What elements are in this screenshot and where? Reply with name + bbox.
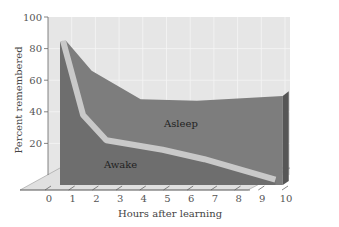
x-tick-label: 7 [212,193,218,204]
y-axis-title: Percent remembered [13,46,24,154]
x-tick-label: 0 [46,193,52,204]
area-side-face [283,91,289,185]
y-tick-label: 20 [29,138,42,149]
x-tick-label: 8 [235,193,241,204]
y-tick-label: 40 [29,106,42,117]
awake-label: Awake [103,159,137,170]
asleep-label: Asleep [163,118,198,129]
x-tick-label: 4 [141,193,147,204]
x-tick-labels: 012345678910 [46,193,293,204]
x-tick-label: 9 [259,193,265,204]
x-tick-label: 2 [93,193,99,204]
y-tick-labels: 20406080100 [23,12,42,149]
x-tick-label: 6 [188,193,194,204]
y-tick-marks [44,17,48,143]
x-axis-title: Hours after learning [118,208,223,219]
y-tick-label: 60 [29,75,42,86]
x-tick-label: 1 [70,193,76,204]
forgetting-curve-chart: Asleep Awake 20406080100 012345678910 Pe… [0,0,339,227]
x-tick-label: 5 [164,193,170,204]
x-tick-label: 10 [280,193,293,204]
x-tick-label: 3 [117,193,123,204]
y-tick-label: 80 [29,43,42,54]
y-tick-label: 100 [23,12,42,23]
